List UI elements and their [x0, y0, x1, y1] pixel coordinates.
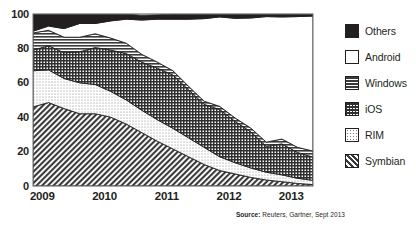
y-tick-label: 40 [3, 112, 29, 123]
legend-item-others[interactable]: Others [345, 22, 416, 39]
source-text: Reuters, Gartner, Sept 2013 [260, 211, 345, 218]
legend-swatch-cross-hatch-icon [345, 102, 359, 116]
legend-swatch-horizontal-lines-icon [345, 76, 359, 90]
legend-swatch-solid-black-icon [345, 24, 359, 38]
legend-item-windows[interactable]: Windows [345, 74, 416, 91]
legend-item-symbian[interactable]: Symbian [345, 152, 416, 169]
chart-legend: OthersAndroidWindowsiOSRIMSymbian [345, 22, 416, 182]
chart-plot-block: 020406080100 20092010201120122013 Source… [0, 0, 330, 232]
y-tick-label: 80 [3, 43, 29, 54]
source-label: Source: [236, 211, 261, 218]
x-axis-tick-labels: 20092010201120122013 [0, 190, 330, 210]
x-tick-label: 2013 [268, 190, 314, 203]
legend-swatch-dots-icon [345, 128, 359, 142]
stacked-area-chart-figure: 020406080100 20092010201120122013 Source… [0, 0, 416, 232]
x-tick-label: 2010 [82, 190, 128, 203]
y-tick-label: 100 [3, 9, 29, 20]
legend-item-android[interactable]: Android [345, 48, 416, 65]
legend-item-rim[interactable]: RIM [345, 126, 416, 143]
legend-swatch-solid-white-icon [345, 50, 359, 64]
y-tick-label: 60 [3, 77, 29, 88]
legend-label: iOS [365, 103, 382, 115]
x-tick-label: 2012 [206, 190, 252, 203]
stacked-area-series-group [33, 14, 313, 186]
legend-label: Symbian [365, 155, 405, 167]
legend-label: Windows [365, 77, 407, 89]
legend-label: RIM [365, 129, 384, 141]
legend-item-ios[interactable]: iOS [345, 100, 416, 117]
legend-label: Android [365, 51, 401, 63]
x-tick-label: 2009 [19, 190, 65, 203]
x-tick-label: 2011 [144, 190, 190, 203]
source-note: Source: Reuters, Gartner, Sept 2013 [150, 211, 345, 219]
legend-label: Others [365, 25, 396, 37]
y-tick-label: 20 [3, 146, 29, 157]
legend-swatch-diagonal-hatch-icon [345, 154, 359, 168]
